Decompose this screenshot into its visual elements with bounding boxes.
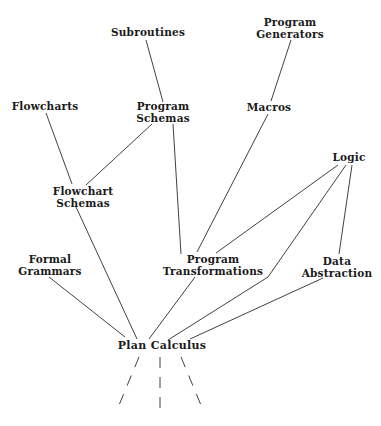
edge-program-schemas-program-transformations — [173, 124, 181, 254]
node-label: Subroutines — [111, 26, 185, 38]
node-label-line-1: Formal — [18, 253, 81, 265]
node-logic: Logic — [332, 151, 365, 163]
edge-formal-grammars-plan-calculus — [49, 277, 125, 337]
node-label-line-1: Flowchart — [53, 185, 114, 197]
node-label-line-2: Schemas — [136, 112, 190, 124]
edge-logic-data-abstraction — [339, 165, 352, 254]
edge-macros-program-transformations — [197, 114, 268, 252]
dashed-continuation-left — [117, 357, 139, 410]
node-label: Plan Calculus — [118, 340, 206, 352]
node-label-line-2: Transformations — [163, 265, 263, 277]
edge-flowchart-schemas-plan-calculus — [76, 207, 137, 339]
node-program-schemas: Program Schemas — [136, 100, 190, 124]
node-label-line-1: Program — [163, 253, 263, 265]
node-label-line-2: Grammars — [18, 265, 81, 277]
edge-flowcharts-flowchart-schemas — [46, 113, 72, 184]
edge-program-schemas-flowchart-schemas — [86, 124, 152, 185]
node-data-abstraction: Data Abstraction — [302, 255, 373, 279]
node-flowcharts: Flowcharts — [12, 100, 79, 112]
node-label-line-2: Abstraction — [302, 267, 373, 279]
node-label-line-1: Data — [302, 255, 373, 267]
node-program-transformations: Program Transformations — [163, 253, 263, 277]
edges-layer — [0, 0, 381, 426]
node-plan-calculus: Plan Calculus — [118, 340, 206, 352]
node-label-line-2: Schemas — [53, 197, 114, 209]
dashed-continuation-right — [181, 357, 203, 410]
node-formal-grammars: Formal Grammars — [18, 253, 81, 277]
node-label: Flowcharts — [12, 100, 79, 112]
edge-subroutines-program-schemas — [146, 40, 163, 102]
node-label: Logic — [332, 151, 365, 163]
node-program-generators: Program Generators — [256, 16, 324, 40]
edge-data-abstraction-plan-calculus — [190, 278, 323, 339]
edge-program-transformations-plan-calculus — [149, 277, 195, 339]
edge-program-generators-macros — [271, 40, 291, 101]
node-label-line-1: Program — [136, 100, 190, 112]
node-subroutines: Subroutines — [111, 26, 185, 38]
node-label: Macros — [247, 101, 291, 113]
node-label-line-1: Program — [256, 16, 324, 28]
node-macros: Macros — [247, 101, 291, 113]
node-flowchart-schemas: Flowchart Schemas — [53, 185, 114, 209]
edge-logic-program-transformations — [216, 165, 338, 253]
node-label-line-2: Generators — [256, 28, 324, 40]
